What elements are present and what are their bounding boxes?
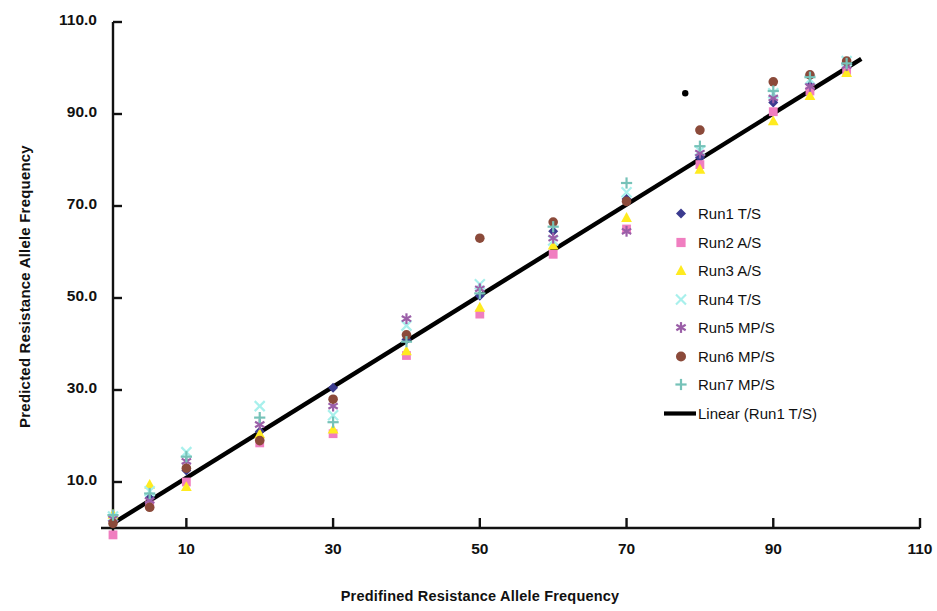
- legend-label: Run6 MP/S: [698, 348, 775, 365]
- legend-item[interactable]: Run4 T/S: [664, 288, 761, 311]
- marker-square: [549, 250, 558, 259]
- legend-item[interactable]: Run5 MP/S: [664, 316, 775, 339]
- marker-triangle: [474, 302, 485, 312]
- legend-label: Run4 T/S: [698, 291, 761, 308]
- legend-label: Run7 MP/S: [698, 376, 775, 393]
- legend-item[interactable]: Linear (Run1 T/S): [664, 402, 817, 425]
- legend-marker-circle-icon: [664, 345, 698, 368]
- legend-label: Linear (Run1 T/S): [698, 405, 817, 422]
- legend-marker-cross-icon: [664, 288, 698, 311]
- marker-dot: [682, 90, 688, 96]
- marker-triangle: [621, 212, 632, 222]
- marker-cross: [255, 401, 265, 411]
- legend-marker-square-icon: [664, 231, 698, 254]
- legend-item[interactable]: Run6 MP/S: [664, 345, 775, 368]
- marker-circle: [768, 77, 778, 87]
- legend-marker-line-icon: [664, 402, 698, 425]
- legend-marker-plus-icon: [664, 373, 698, 396]
- legend-marker-diamond-icon: [664, 202, 698, 225]
- marker-square: [109, 531, 118, 540]
- legend-item[interactable]: Run2 A/S: [664, 231, 761, 254]
- marker-circle: [182, 463, 192, 473]
- marker-circle: [622, 197, 632, 207]
- marker-circle: [475, 233, 485, 243]
- marker-square: [769, 107, 778, 116]
- legend-label: Run3 A/S: [698, 262, 761, 279]
- legend-marker-triangle-icon: [664, 259, 698, 282]
- legend-item[interactable]: Run7 MP/S: [664, 373, 775, 396]
- marker-circle: [255, 436, 265, 446]
- legend-item[interactable]: Run1 T/S: [664, 202, 761, 225]
- legend-label: Run2 A/S: [698, 234, 761, 251]
- marker-circle: [145, 503, 155, 513]
- legend-marker-star-icon: [664, 316, 698, 339]
- legend-label: Run1 T/S: [698, 205, 761, 222]
- legend-label: Run5 MP/S: [698, 319, 775, 336]
- marker-plus: [181, 451, 192, 462]
- marker-circle: [328, 394, 338, 404]
- marker-circle: [695, 125, 705, 135]
- legend-item[interactable]: Run3 A/S: [664, 259, 761, 282]
